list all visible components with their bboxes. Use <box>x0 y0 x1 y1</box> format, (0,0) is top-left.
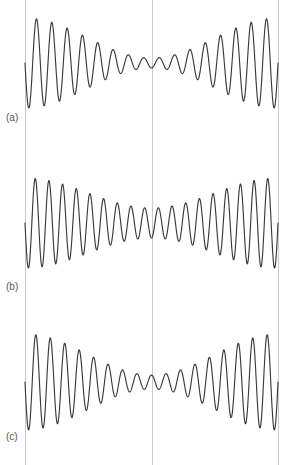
panel-b <box>0 155 290 310</box>
panel-label-b: (b) <box>6 281 18 293</box>
panel-a <box>0 0 290 155</box>
waveform-c <box>0 310 290 465</box>
panel-c <box>0 310 290 465</box>
figure-container: (a) (b) (c) <box>0 0 290 465</box>
panel-label-a: (a) <box>6 112 18 124</box>
waveform-a <box>0 0 290 155</box>
panel-label-c: (c) <box>6 431 18 443</box>
waveform-b <box>0 155 290 310</box>
